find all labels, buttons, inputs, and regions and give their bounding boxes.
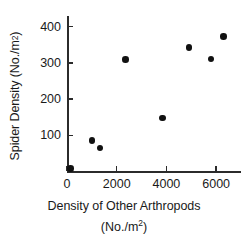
x-axis-line xyxy=(67,171,241,173)
x-axis-title-units-suffix: ) xyxy=(143,220,147,234)
data-point xyxy=(89,137,96,144)
y-axis-line xyxy=(67,16,69,173)
data-point xyxy=(97,145,104,152)
y-axis-title-suffix: ) xyxy=(8,32,22,36)
data-point xyxy=(220,33,227,40)
data-point xyxy=(159,115,166,122)
y-tick-label-100: 100 xyxy=(27,129,61,142)
y-tick-label-300: 300 xyxy=(27,57,61,70)
y-tick-300 xyxy=(69,62,74,63)
x-tick-6000 xyxy=(215,166,216,171)
x-tick-4000 xyxy=(166,166,167,171)
data-point xyxy=(122,56,129,63)
x-tick-label-2000: 2000 xyxy=(95,178,139,191)
x-axis-title: Density of Other Arthropods (No./m2) xyxy=(0,199,248,234)
y-tick-400 xyxy=(69,26,74,27)
x-tick-label-0: 0 xyxy=(45,178,89,191)
y-axis-title: Spider Density (No./m2) xyxy=(4,6,26,186)
data-point xyxy=(186,44,193,51)
scatter-plot-figure: Spider Density (No./m2) 100200300400 020… xyxy=(0,0,248,241)
y-tick-100 xyxy=(69,135,74,136)
plot-area: 100200300400 0200040006000 xyxy=(67,16,241,173)
x-axis-title-line2: (No./m2) xyxy=(0,220,248,234)
x-tick-label-6000: 6000 xyxy=(194,178,238,191)
y-tick-label-400: 400 xyxy=(27,21,61,34)
x-axis-title-line1: Density of Other Arthropods xyxy=(0,199,248,213)
data-point xyxy=(208,56,215,63)
y-axis-title-text: Spider Density (No./m xyxy=(8,40,22,160)
y-tick-200 xyxy=(69,98,74,99)
y-tick-label-200: 200 xyxy=(27,93,61,106)
x-tick-label-4000: 4000 xyxy=(144,178,188,191)
x-tick-2000 xyxy=(116,166,117,171)
data-point xyxy=(67,165,74,172)
x-axis-title-units-prefix: (No./m xyxy=(101,220,139,234)
